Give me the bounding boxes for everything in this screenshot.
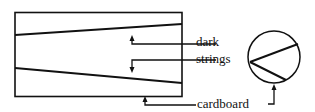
circle-string-lower <box>250 62 286 80</box>
circle-string-upper <box>250 44 298 62</box>
cardboard-leader-line <box>145 99 196 105</box>
circle-leader-line <box>268 88 274 104</box>
arrow-up-icon <box>130 35 135 41</box>
label-strings: strings <box>196 52 231 65</box>
end-view-circle <box>248 31 300 83</box>
label-dark: dark <box>196 35 219 48</box>
string-upper <box>15 24 182 35</box>
string-lower <box>15 68 182 83</box>
label-cardboard: cardboard <box>197 97 249 110</box>
diagram-canvas <box>0 0 315 112</box>
arrow-up-icon <box>272 84 277 90</box>
arrow-down-icon <box>130 67 135 73</box>
